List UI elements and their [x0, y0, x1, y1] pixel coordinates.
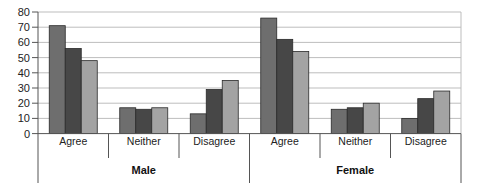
bar-series-3 [152, 108, 168, 134]
y-axis: 01020304050607080 [18, 6, 38, 140]
y-tick-label: 60 [18, 36, 30, 48]
bar-series-3 [222, 80, 238, 133]
group-label: Male [132, 164, 156, 176]
category-label: Disagree [405, 135, 447, 147]
bar-series-3 [81, 61, 97, 134]
category-label: Agree [271, 135, 299, 147]
category-label: Disagree [193, 135, 235, 147]
bar-series-2 [347, 108, 363, 134]
bar-series-3 [363, 103, 379, 133]
y-tick-label: 80 [18, 6, 30, 18]
category-label: Neither [338, 135, 372, 147]
bar-series-2 [136, 109, 152, 133]
y-tick-label: 30 [18, 82, 30, 94]
y-tick-label: 40 [18, 67, 30, 79]
bar-series-2 [277, 39, 293, 133]
bar-series-1 [120, 108, 136, 134]
bar-series-1 [190, 114, 206, 134]
category-label: Agree [59, 135, 87, 147]
bar-series-2 [65, 48, 81, 133]
group-label: Female [336, 164, 374, 176]
y-tick-label: 10 [18, 112, 30, 124]
grouped-bar-chart: 01020304050607080 AgreeNeitherDisagreeAg… [0, 0, 477, 196]
y-tick-label: 0 [24, 128, 30, 140]
bars [49, 18, 450, 134]
x-axis: AgreeNeitherDisagreeAgreeNeitherDisagree… [38, 134, 461, 183]
y-tick-label: 20 [18, 97, 30, 109]
y-tick-label: 50 [18, 52, 30, 64]
y-tick-label: 70 [18, 21, 30, 33]
category-label: Neither [127, 135, 161, 147]
bar-series-3 [293, 52, 309, 134]
bar-series-1 [402, 118, 418, 133]
bar-series-1 [261, 18, 277, 134]
gridlines [38, 12, 461, 134]
bar-series-2 [418, 99, 434, 134]
bar-series-2 [206, 90, 222, 134]
bar-series-3 [434, 91, 450, 134]
bar-series-1 [49, 26, 65, 134]
bar-series-1 [331, 109, 347, 133]
